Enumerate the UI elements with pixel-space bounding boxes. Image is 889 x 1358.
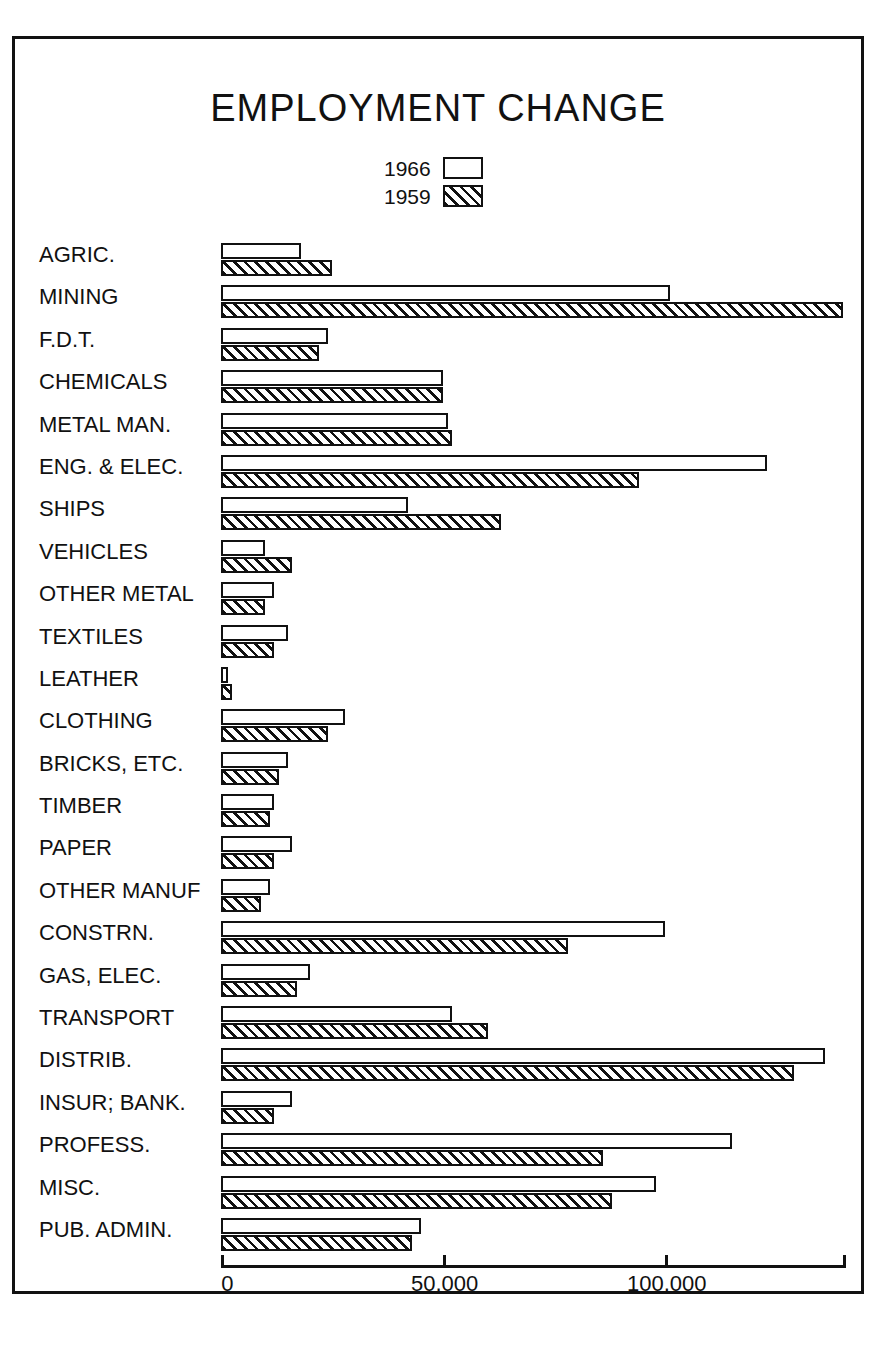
chart-row: OTHER MANUF (15, 875, 861, 917)
chart-row: TRANSPORT (15, 1002, 861, 1044)
bar-group (221, 705, 861, 747)
category-label: CONSTRN. (39, 921, 154, 945)
chart-row: CONSTRN. (15, 917, 861, 959)
bar-1966 (221, 921, 665, 937)
bar-1966 (221, 285, 670, 301)
bar-1959 (221, 514, 501, 530)
chart-frame: EMPLOYMENT CHANGE 1966 1959 AGRIC.MINING… (12, 36, 864, 1294)
category-label: PROFESS. (39, 1133, 150, 1157)
bar-group (221, 1129, 861, 1171)
legend-swatch-open (443, 157, 483, 179)
chart-row: INSUR; BANK. (15, 1087, 861, 1129)
category-label: VEHICLES (39, 540, 148, 564)
chart-row: METAL MAN. (15, 409, 861, 451)
category-label: F.D.T. (39, 328, 95, 352)
chart-row: GAS, ELEC. (15, 960, 861, 1002)
x-axis-tick (665, 1255, 668, 1268)
bar-group (221, 536, 861, 578)
bar-1966 (221, 497, 408, 513)
legend-item-1966: 1966 (342, 157, 534, 179)
bar-group (221, 1044, 861, 1086)
chart-row: TIMBER (15, 790, 861, 832)
bar-group (221, 748, 861, 790)
category-label: INSUR; BANK. (39, 1091, 186, 1115)
bar-1966 (221, 1048, 825, 1064)
x-axis-tick-label: 100,000 (627, 1271, 707, 1297)
bar-group (221, 663, 861, 705)
bar-1966 (221, 879, 270, 895)
chart-row: ENG. & ELEC. (15, 451, 861, 493)
bar-1959 (221, 1065, 794, 1081)
bar-1959 (221, 1235, 412, 1251)
bar-group (221, 621, 861, 663)
bar-1966 (221, 243, 301, 259)
chart-row: MINING (15, 281, 861, 323)
x-axis-tick (221, 1255, 224, 1268)
bar-1966 (221, 455, 767, 471)
bar-1959 (221, 1193, 612, 1209)
category-label: ENG. & ELEC. (39, 455, 183, 479)
bar-1966 (221, 1133, 732, 1149)
bar-1966 (221, 625, 288, 641)
bar-1959 (221, 302, 843, 318)
legend-label-1959: 1959 (384, 186, 431, 207)
bar-group (221, 1087, 861, 1129)
category-label: GAS, ELEC. (39, 964, 161, 988)
category-label: METAL MAN. (39, 413, 171, 437)
bar-group (221, 366, 861, 408)
legend: 1966 1959 (15, 157, 861, 207)
category-label: PAPER (39, 836, 112, 860)
bar-group (221, 578, 861, 620)
bar-1959 (221, 981, 297, 997)
bar-1959 (221, 642, 274, 658)
bar-1966 (221, 964, 310, 980)
bar-1966 (221, 1006, 452, 1022)
category-label: TIMBER (39, 794, 122, 818)
bar-1966 (221, 794, 274, 810)
bar-1959 (221, 599, 265, 615)
bar-1966 (221, 836, 292, 852)
plot-area: AGRIC.MININGF.D.T.CHEMICALSMETAL MAN.ENG… (15, 239, 861, 1249)
category-label: SHIPS (39, 497, 105, 521)
bar-1959 (221, 430, 452, 446)
bar-1959 (221, 557, 292, 573)
bar-1966 (221, 1091, 292, 1107)
bar-1959 (221, 345, 319, 361)
bar-1959 (221, 1150, 603, 1166)
x-axis-line (221, 1265, 843, 1268)
chart-row: OTHER METAL (15, 578, 861, 620)
bar-group (221, 409, 861, 451)
bar-1959 (221, 726, 328, 742)
legend-label-1966: 1966 (384, 158, 431, 179)
bar-group (221, 960, 861, 1002)
chart-row: LEATHER (15, 663, 861, 705)
chart-row: F.D.T. (15, 324, 861, 366)
category-label: OTHER MANUF (39, 879, 200, 903)
bar-group (221, 1172, 861, 1214)
category-label: CLOTHING (39, 709, 153, 733)
category-label: MINING (39, 285, 118, 309)
bar-1959 (221, 1023, 488, 1039)
bar-group (221, 239, 861, 281)
bar-group (221, 832, 861, 874)
bar-group (221, 451, 861, 493)
x-axis: 050,000100,000 (221, 1251, 861, 1297)
bar-1966 (221, 667, 228, 683)
bar-group (221, 917, 861, 959)
bar-1966 (221, 413, 448, 429)
bar-1959 (221, 896, 261, 912)
bar-1966 (221, 582, 274, 598)
bar-1966 (221, 1218, 421, 1234)
bar-1966 (221, 370, 443, 386)
bar-1959 (221, 684, 232, 700)
category-label: DISTRIB. (39, 1048, 132, 1072)
chart-row: MISC. (15, 1172, 861, 1214)
chart-row: CLOTHING (15, 705, 861, 747)
page-title: EMPLOYMENT CHANGE (15, 87, 861, 130)
chart-row: VEHICLES (15, 536, 861, 578)
x-axis-tick-label: 0 (221, 1271, 233, 1297)
category-label: TRANSPORT (39, 1006, 174, 1030)
bar-1959 (221, 387, 443, 403)
bar-1959 (221, 811, 270, 827)
chart-row: PROFESS. (15, 1129, 861, 1171)
